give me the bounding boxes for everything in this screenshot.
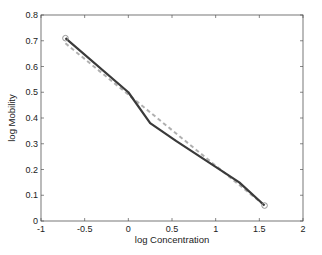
x-tick-label: 1	[213, 224, 218, 234]
y-tick-label: 0.6	[25, 62, 38, 72]
y-tick-label: 0.3	[25, 139, 38, 149]
y-tick-label: 0.8	[25, 10, 38, 20]
x-tick-label: 0.5	[166, 224, 179, 234]
y-tick-label: 0.7	[25, 36, 38, 46]
x-axis-label: log Concentration	[135, 234, 209, 245]
x-tick-label: 2	[300, 224, 305, 234]
x-tick-label: -0.5	[77, 224, 93, 234]
plot-area	[41, 15, 303, 221]
y-tick-label: 0	[33, 216, 38, 226]
y-tick-label: 0.5	[25, 87, 38, 97]
y-axis-label: log Mobility	[6, 94, 17, 142]
x-tick-label: -1	[37, 224, 45, 234]
x-tick-label: 1.5	[253, 224, 266, 234]
y-tick-label: 0.2	[25, 165, 38, 175]
y-tick-label: 0.4	[25, 113, 38, 123]
plot-frame	[41, 15, 303, 221]
x-tick-label: 0	[126, 224, 131, 234]
y-tick-label: 0.1	[25, 190, 38, 200]
chart: -1-0.500.511.52 00.10.20.30.40.50.60.70.…	[0, 0, 322, 255]
